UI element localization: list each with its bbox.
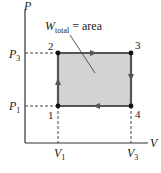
point-label-2: 2 [48,40,54,52]
y-tick-p3: P3 [8,47,20,63]
work-area [58,53,131,106]
x-axis-label: V [150,136,159,150]
x-tick-v1: V1 [54,146,65,162]
y-axis-label: P [23,0,32,13]
point-label-1: 1 [48,109,54,121]
point-label-4: 4 [135,108,141,120]
pv-diagram: P V P3 P1 V1 V3 1 2 3 4 Wtotal = area [0,0,161,173]
work-annotation: Wtotal = area [45,19,103,35]
point-label-3: 3 [135,39,141,51]
x-tick-v3: V3 [127,146,138,162]
y-tick-p1: P1 [8,99,20,115]
